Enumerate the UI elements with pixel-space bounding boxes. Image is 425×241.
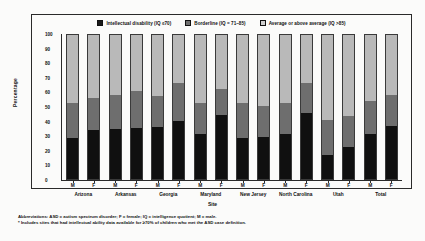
x-axis-sex-label: M xyxy=(360,183,380,188)
y-axis-tick-label: 100 xyxy=(45,32,53,37)
legend-item-id: Intellectual disability (IQ ≤70) xyxy=(97,20,171,26)
bar-segment-average-or-above xyxy=(173,35,184,83)
bar-segment-intellectual-disability xyxy=(343,147,354,179)
bar-column xyxy=(109,34,122,180)
bar-column xyxy=(151,34,164,180)
x-axis-site-label: Total xyxy=(352,192,410,197)
bar-segment-average-or-above xyxy=(195,35,206,103)
bar-segment-borderline xyxy=(237,103,248,138)
bar-segment-average-or-above xyxy=(237,35,248,103)
plot-area xyxy=(62,34,402,180)
bar-segment-borderline xyxy=(195,103,206,134)
bar-column xyxy=(257,34,270,180)
bar-segment-average-or-above xyxy=(131,35,142,91)
bar-column xyxy=(130,34,143,180)
bar-segment-borderline xyxy=(216,89,227,115)
bar-segment-average-or-above xyxy=(152,35,163,96)
bar-segment-borderline xyxy=(343,116,354,146)
bar-column xyxy=(385,34,398,180)
bar-segment-average-or-above xyxy=(322,35,333,120)
bar-column xyxy=(87,34,100,180)
bar-segment-intellectual-disability xyxy=(365,134,376,179)
legend-item-av: Average or above average (IQ >85) xyxy=(260,20,346,26)
bar-segment-intellectual-disability xyxy=(88,130,99,179)
y-axis-tick-label: 90 xyxy=(45,46,50,51)
bar-segment-average-or-above xyxy=(258,35,269,106)
x-axis-line xyxy=(61,180,402,181)
bar-segment-intellectual-disability xyxy=(131,128,142,179)
legend-swatch-icon-av xyxy=(260,20,266,26)
x-axis-sex-label: F xyxy=(126,183,146,188)
bar-segment-intellectual-disability xyxy=(301,113,312,179)
bar-segment-intellectual-disability xyxy=(280,134,291,179)
bar-segment-borderline xyxy=(110,95,121,128)
bar-segment-average-or-above xyxy=(301,35,312,83)
bar-column xyxy=(342,34,355,180)
y-axis-tick-label: 10 xyxy=(45,163,50,168)
legend-swatch-icon-bl xyxy=(185,20,191,26)
bar-segment-intellectual-disability xyxy=(110,129,121,179)
bar-column xyxy=(279,34,292,180)
y-axis-tick-label: 80 xyxy=(45,61,50,66)
bar-segment-borderline xyxy=(386,95,397,126)
x-axis-sex-label: F xyxy=(84,183,104,188)
bar-segment-average-or-above xyxy=(280,35,291,103)
bar-column xyxy=(215,34,228,180)
legend-item-bl: Borderline (IQ = 71–85) xyxy=(185,20,245,26)
bar-segment-average-or-above xyxy=(343,35,354,116)
bar-column xyxy=(364,34,377,180)
x-axis-sex-label: F xyxy=(211,183,231,188)
bar-segment-borderline xyxy=(152,96,163,127)
x-axis-sex-label: F xyxy=(381,183,401,188)
legend-swatch-icon-id xyxy=(97,20,103,26)
y-axis-tick-label: 0 xyxy=(45,178,48,183)
bar-column xyxy=(321,34,334,180)
chart-legend: Intellectual disability (IQ ≤70)Borderli… xyxy=(31,17,412,29)
bar-segment-intellectual-disability xyxy=(258,137,269,179)
bar-segment-intellectual-disability xyxy=(322,155,333,179)
bar-column xyxy=(172,34,185,180)
bar-segment-intellectual-disability xyxy=(216,115,227,179)
x-axis-sex-label: F xyxy=(254,183,274,188)
x-axis-sex-label: M xyxy=(233,183,253,188)
x-axis-sex-label: F xyxy=(296,183,316,188)
x-axis-sex-label: M xyxy=(105,183,125,188)
x-axis-sex-label: M xyxy=(190,183,210,188)
y-axis-tick-label: 60 xyxy=(45,90,50,95)
x-axis-sex-label: M xyxy=(148,183,168,188)
bar-segment-average-or-above xyxy=(216,35,227,89)
legend-label: Average or above average (IQ >85) xyxy=(269,21,346,26)
bar-segment-borderline xyxy=(280,103,291,134)
x-axis-sex-label: M xyxy=(275,183,295,188)
legend-label: Borderline (IQ = 71–85) xyxy=(194,21,245,26)
legend-label: Intellectual disability (IQ ≤70) xyxy=(106,21,171,26)
figure-container: Intellectual disability (IQ ≤70)Borderli… xyxy=(0,0,425,241)
bar-segment-borderline xyxy=(88,98,99,130)
bar-segment-average-or-above xyxy=(67,35,78,103)
bar-segment-average-or-above xyxy=(110,35,121,95)
bar-segment-borderline xyxy=(365,101,376,134)
bar-segment-average-or-above xyxy=(365,35,376,101)
bar-segment-borderline xyxy=(258,106,269,137)
footnote-inclusion: * Includes sites that had intellectual a… xyxy=(18,220,418,226)
y-axis-tick-label: 40 xyxy=(45,119,50,124)
bar-segment-intellectual-disability xyxy=(195,134,206,179)
bar-column xyxy=(236,34,249,180)
bar-column xyxy=(66,34,79,180)
bar-segment-average-or-above xyxy=(88,35,99,98)
bar-segment-borderline xyxy=(301,83,312,114)
bar-column xyxy=(300,34,313,180)
x-axis-sex-label: F xyxy=(339,183,359,188)
y-axis-tick-label: 50 xyxy=(45,105,50,110)
bar-segment-borderline xyxy=(131,91,142,128)
x-axis-title: Site xyxy=(0,201,425,207)
y-axis-title: Percentage xyxy=(12,78,18,107)
bar-segment-intellectual-disability xyxy=(173,121,184,179)
bar-column xyxy=(194,34,207,180)
bar-segment-borderline xyxy=(322,120,333,155)
y-axis-tick-label: 30 xyxy=(45,134,50,139)
x-axis-sex-label: F xyxy=(169,183,189,188)
bar-segment-borderline xyxy=(173,83,184,121)
bar-segment-average-or-above xyxy=(386,35,397,95)
x-axis-sex-label: M xyxy=(63,183,83,188)
